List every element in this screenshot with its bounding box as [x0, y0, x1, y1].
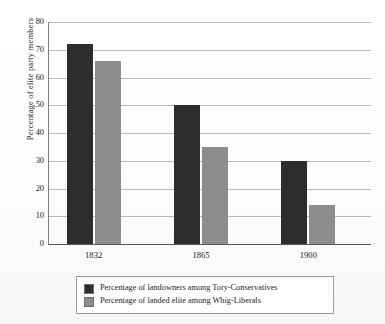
bar [174, 105, 200, 244]
bar [202, 147, 228, 244]
y-axis-title: Percentage of elite party members [25, 0, 35, 179]
x-axis-tick-label: 1832 [85, 250, 102, 260]
bar [309, 205, 335, 244]
chart-legend: Percentage of landowners among Tory-Cons… [76, 276, 334, 314]
bar [95, 61, 121, 244]
legend-swatch-icon [84, 297, 94, 307]
legend-item: Percentage of landed elite among Whig-Li… [84, 295, 325, 308]
y-axis-tick-label: 80 [10, 18, 44, 26]
legend-item: Percentage of landowners among Tory-Cons… [84, 282, 325, 295]
y-axis-tick-label: 40 [10, 129, 44, 137]
legend-item-label: Percentage of landowners among Tory-Cons… [100, 284, 278, 292]
y-axis-tick-label: 10 [10, 212, 44, 220]
bar [67, 44, 93, 244]
x-axis-tick-label: 1865 [192, 250, 209, 260]
y-axis-tick-label: 0 [10, 240, 44, 248]
bar [281, 161, 307, 244]
x-axis-tick-label: 1900 [300, 250, 317, 260]
plot-area: 01020304050607080 183218651900 [48, 22, 371, 245]
gridline [49, 22, 371, 23]
y-axis-tick-label: 70 [10, 46, 44, 54]
legend-item-label: Percentage of landed elite among Whig-Li… [100, 297, 261, 305]
legend-swatch-icon [84, 284, 94, 294]
bar-chart-figure: Percentage of elite party members 010203… [0, 0, 385, 324]
y-axis-tick-label: 20 [10, 184, 44, 192]
gridline [49, 50, 371, 51]
y-axis-tick-label: 60 [10, 73, 44, 81]
y-axis-tick-label: 50 [10, 101, 44, 109]
y-axis-tick-label: 30 [10, 157, 44, 165]
